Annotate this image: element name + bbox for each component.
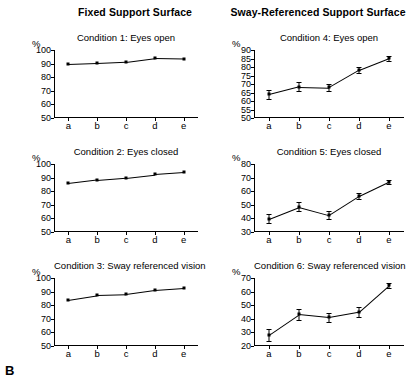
error-cap-condition-5-b-upper <box>297 202 302 203</box>
line-segment-condition-6-2 <box>329 312 359 318</box>
plot-area-condition-6: 203040506070abcde <box>254 278 404 346</box>
data-point-condition-1-c <box>125 60 128 63</box>
data-point-condition-2-e <box>182 171 185 174</box>
line-segment-condition-3-2 <box>126 290 155 295</box>
data-point-condition-3-b <box>96 294 99 297</box>
y-tick-mark-condition-4-90 <box>251 50 254 51</box>
y-tick-mark-condition-5-80 <box>251 164 254 165</box>
y-axis-line-condition-1 <box>54 50 55 118</box>
y-tick-label-condition-4-60: 60 <box>241 97 251 106</box>
y-tick-mark-condition-5-60 <box>251 191 254 192</box>
y-tick-mark-condition-4-55 <box>251 110 254 111</box>
y-tick-label-condition-6-30: 30 <box>241 328 251 337</box>
y-tick-label-condition-4-75: 75 <box>241 71 251 80</box>
y-tick-mark-condition-5-50 <box>251 205 254 206</box>
y-tick-mark-condition-6-40 <box>251 319 254 320</box>
chart-condition-2: Condition 2: Eyes closed%5060708090100ab… <box>28 146 200 234</box>
chart-condition-3: Condition 3: Sway referenced vision%5060… <box>28 260 200 348</box>
y-tick-label-condition-6-60: 60 <box>241 287 251 296</box>
error-cap-condition-4-b-upper <box>297 82 302 83</box>
y-tick-label-condition-4-65: 65 <box>241 88 251 97</box>
x-tick-label-condition-5-a: a <box>266 235 271 245</box>
error-cap-condition-5-e-lower <box>387 184 392 185</box>
panel-label-b: B <box>5 364 14 377</box>
line-segment-condition-4-0 <box>269 87 299 96</box>
data-point-condition-4-c <box>328 86 331 89</box>
error-cap-condition-5-b-lower <box>297 211 302 212</box>
y-axis-line-condition-4 <box>254 50 255 118</box>
y-tick-mark-condition-4-80 <box>251 67 254 68</box>
error-cap-condition-5-a-lower <box>267 223 272 224</box>
x-tick-label-condition-5-b: b <box>296 235 301 245</box>
error-cap-condition-5-d-lower <box>357 199 362 200</box>
error-cap-condition-4-d-lower <box>357 73 362 74</box>
y-tick-mark-condition-1-80 <box>51 77 54 78</box>
chart-condition-1: Condition 1: Eyes open%5060708090100abcd… <box>28 32 200 120</box>
line-segment-condition-1-2 <box>126 58 155 63</box>
line-segment-condition-5-2 <box>329 196 360 216</box>
error-cap-condition-6-c-upper <box>327 313 332 314</box>
y-tick-mark-condition-6-30 <box>251 332 254 333</box>
data-point-condition-4-d <box>358 69 361 72</box>
data-point-condition-4-a <box>268 93 271 96</box>
y-axis-line-condition-5 <box>254 164 255 232</box>
y-tick-label-condition-1-100: 100 <box>36 46 51 55</box>
column-header-sway-referenced-support-surface: Sway-Referenced Support Surface <box>222 6 414 18</box>
y-axis-line-condition-2 <box>54 164 55 232</box>
data-point-condition-1-b <box>96 62 99 65</box>
x-tick-label-condition-5-d: d <box>356 235 361 245</box>
y-axis-unit-condition-6: % <box>232 267 240 277</box>
x-tick-label-condition-5-e: e <box>386 235 391 245</box>
line-segment-condition-4-1 <box>299 87 329 89</box>
line-segment-condition-4-2 <box>329 70 359 88</box>
error-cap-condition-4-a-lower <box>267 99 272 100</box>
error-cap-condition-5-a-upper <box>267 214 272 215</box>
y-tick-label-condition-4-55: 55 <box>241 105 251 114</box>
y-tick-label-condition-5-50: 50 <box>241 200 251 209</box>
x-tick-label-condition-1-b: b <box>95 121 100 131</box>
y-tick-label-condition-2-70: 70 <box>41 200 51 209</box>
y-tick-mark-condition-1-100 <box>51 50 54 51</box>
x-tick-label-condition-3-b: b <box>95 349 100 359</box>
line-segment-condition-3-3 <box>155 288 184 291</box>
y-axis-line-condition-6 <box>254 278 255 346</box>
y-tick-label-condition-1-70: 70 <box>41 86 51 95</box>
plot-area-condition-4: 505560657075808590abcde <box>254 50 404 118</box>
y-tick-mark-condition-2-70 <box>51 205 54 206</box>
y-tick-mark-condition-2-60 <box>51 218 54 219</box>
x-tick-label-condition-1-c: c <box>124 121 129 131</box>
y-tick-label-condition-5-30: 30 <box>241 228 251 237</box>
x-tick-label-condition-1-d: d <box>152 121 157 131</box>
y-tick-mark-condition-1-90 <box>51 64 54 65</box>
line-segment-condition-5-3 <box>359 182 389 197</box>
line-segment-condition-6-1 <box>299 314 329 318</box>
error-cap-condition-4-b-lower <box>297 91 302 92</box>
y-tick-mark-condition-1-60 <box>51 104 54 105</box>
error-cap-condition-6-b-upper <box>297 309 302 310</box>
plot-area-condition-3: 5060708090100abcde <box>54 278 198 346</box>
x-tick-label-condition-2-e: e <box>181 235 186 245</box>
y-tick-label-condition-1-50: 50 <box>41 114 51 123</box>
y-tick-label-condition-4-90: 90 <box>241 46 251 55</box>
x-tick-label-condition-6-c: c <box>327 349 332 359</box>
figure-panel-b: Fixed Support Surface Sway-Referenced Su… <box>0 0 417 386</box>
y-tick-label-condition-4-70: 70 <box>241 80 251 89</box>
error-cap-condition-4-c-upper <box>327 84 332 85</box>
data-point-condition-4-b <box>298 85 301 88</box>
line-segment-condition-6-0 <box>269 314 300 335</box>
y-tick-mark-condition-4-70 <box>251 84 254 85</box>
y-tick-mark-condition-3-70 <box>51 319 54 320</box>
y-tick-mark-condition-1-70 <box>51 91 54 92</box>
x-tick-label-condition-3-c: c <box>124 349 129 359</box>
data-point-condition-6-b <box>298 313 301 316</box>
x-tick-label-condition-4-b: b <box>296 121 301 131</box>
y-tick-label-condition-3-80: 80 <box>41 301 51 310</box>
data-point-condition-5-d <box>358 194 361 197</box>
error-cap-condition-6-e-lower <box>387 288 392 289</box>
error-cap-condition-4-a-upper <box>267 90 272 91</box>
error-cap-condition-4-c-lower <box>327 91 332 92</box>
y-tick-mark-condition-5-30 <box>251 232 254 233</box>
y-axis-unit-condition-5: % <box>232 153 240 163</box>
error-cap-condition-6-b-lower <box>297 320 302 321</box>
column-header-fixed-support-surface: Fixed Support Surface <box>50 6 220 18</box>
